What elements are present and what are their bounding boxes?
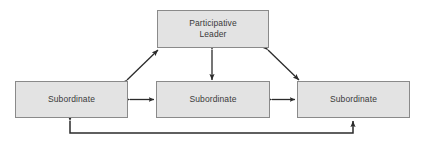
node-subordinate-right: Subordinate — [297, 81, 410, 118]
node-subordinate-middle-label: Subordinate — [190, 94, 237, 105]
node-subordinate-middle: Subordinate — [156, 81, 270, 118]
node-participative-leader-label: Participative Leader — [189, 18, 237, 40]
node-subordinate-left-label: Subordinate — [48, 94, 95, 105]
node-participative-leader: Participative Leader — [157, 10, 269, 48]
participative-leadership-diagram: Participative Leader Subordinate Subordi… — [0, 0, 425, 145]
connector-leader-right-subordinate — [268, 50, 299, 80]
node-subordinate-right-label: Subordinate — [330, 94, 377, 105]
connector-leader-left-subordinate — [127, 50, 158, 80]
node-subordinate-left: Subordinate — [15, 81, 128, 118]
connector-left-right-subordinate-bypass — [70, 121, 353, 133]
